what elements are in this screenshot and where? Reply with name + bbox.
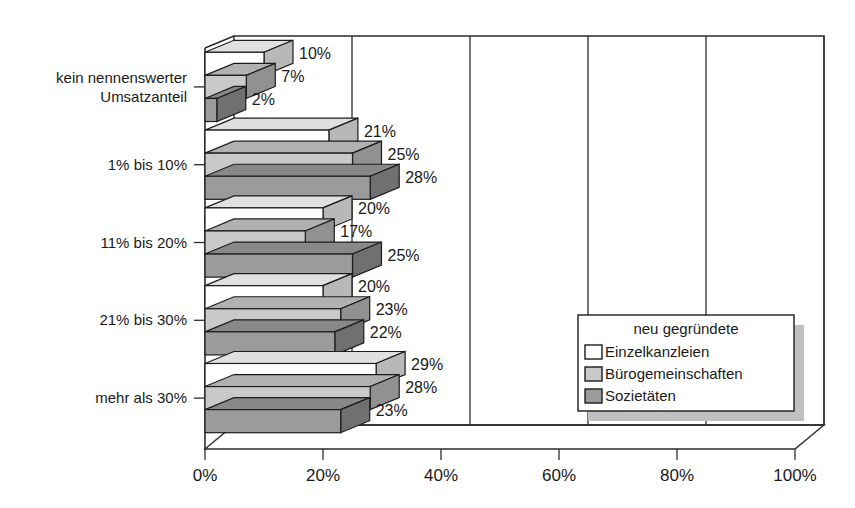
bar-top-face <box>205 375 399 387</box>
legend-swatch <box>585 345 602 359</box>
category-label: 21% bis 30% <box>99 311 187 328</box>
bar-top-face <box>205 164 399 176</box>
category-label: kein nennenswerterUmsatzanteil <box>56 69 187 105</box>
x-tick-label: 40% <box>424 466 458 485</box>
bar-front-face <box>205 410 341 433</box>
bar-top-face <box>205 242 382 254</box>
value-label: 22% <box>370 324 402 341</box>
bar-top-face <box>205 351 405 363</box>
legend-label: Bürogemeinschaften <box>605 365 743 382</box>
value-label: 25% <box>388 247 420 264</box>
legend-item-3[interactable]: Sozietäten <box>585 387 676 404</box>
value-label: 21% <box>364 123 396 140</box>
chart-container: 10%7%2%21%25%28%20%17%25%20%23%22%29%28%… <box>0 0 855 508</box>
value-label: 7% <box>281 68 304 85</box>
category-tick-group <box>194 87 205 398</box>
value-label: 2% <box>252 91 275 108</box>
value-label: 23% <box>376 301 408 318</box>
bar-chart-3d: 10%7%2%21%25%28%20%17%25%20%23%22%29%28%… <box>0 0 855 508</box>
category-label: 11% bis 20% <box>101 234 187 251</box>
value-label: 25% <box>388 146 420 163</box>
value-label: 28% <box>405 169 437 186</box>
bar-top-face <box>205 141 382 153</box>
value-label: 10% <box>299 45 331 62</box>
value-label: 23% <box>376 402 408 419</box>
legend-title: neu gegründete <box>633 320 738 337</box>
value-label: 20% <box>358 200 390 217</box>
x-tick-label: 80% <box>660 466 694 485</box>
legend-label: Sozietäten <box>605 387 676 404</box>
x-tick-label: 20% <box>306 466 340 485</box>
legend-label: Einzelkanzleien <box>605 343 709 360</box>
value-label: 29% <box>411 356 443 373</box>
bar-4-3 <box>205 320 364 355</box>
legend[interactable]: neu gegründeteEinzelkanzleienBürogemeins… <box>578 315 804 421</box>
bar-3-3 <box>205 242 382 277</box>
bar-group <box>205 40 405 432</box>
x-tick-label-group: 0%20%40%60%80%100% <box>193 466 817 485</box>
category-label-group: kein nennenswerterUmsatzanteil1% bis 10%… <box>56 69 187 406</box>
x-tick-label: 0% <box>193 466 218 485</box>
x-tick-group <box>205 449 795 460</box>
x-tick-label: 60% <box>542 466 576 485</box>
legend-swatch <box>585 367 602 381</box>
x-tick-label: 100% <box>773 466 816 485</box>
legend-swatch <box>585 389 602 403</box>
bar-2-3 <box>205 164 399 199</box>
value-label: 28% <box>405 379 437 396</box>
category-label: mehr als 30% <box>95 389 187 406</box>
bar-front-face <box>205 98 217 121</box>
bar-5-3 <box>205 398 370 433</box>
value-label: 20% <box>358 278 390 295</box>
value-label: 17% <box>340 223 372 240</box>
category-label: 1% bis 10% <box>108 156 187 173</box>
legend-item-2[interactable]: Bürogemeinschaften <box>585 365 743 382</box>
